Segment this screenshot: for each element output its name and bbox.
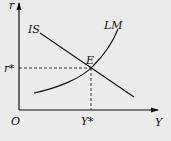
origin-label: O xyxy=(11,115,20,128)
is-lm-diagram: r Y O IS LM E r* Y* xyxy=(0,0,171,141)
r-star-label: r* xyxy=(4,62,15,74)
lm-curve xyxy=(34,29,118,93)
is-label: IS xyxy=(27,23,40,36)
lm-label: LM xyxy=(103,19,123,32)
x-axis-label: Y xyxy=(155,116,164,129)
y-star-label: Y* xyxy=(81,115,94,127)
y-axis-label: r xyxy=(9,0,15,12)
equilibrium-label: E xyxy=(85,54,94,67)
